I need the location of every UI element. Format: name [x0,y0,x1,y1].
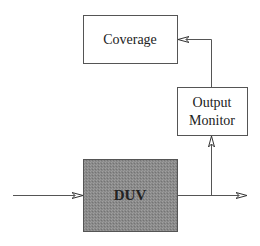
verification-diagram: Coverage Output Monitor DUV [0,0,260,246]
duv-box: DUV [84,160,178,232]
coverage-feed-arrow [178,40,212,88]
duv-label: DUV [114,187,147,203]
output-monitor-label-line2: Monitor [189,113,235,128]
output-monitor-label-line1: Output [193,95,232,110]
coverage-box: Coverage [84,16,178,64]
output-monitor-box: Output Monitor [178,88,248,136]
coverage-label: Coverage [103,32,157,47]
